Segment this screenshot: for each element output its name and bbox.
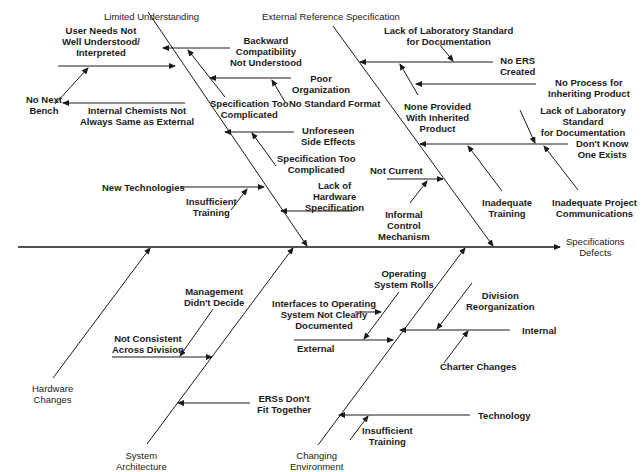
cause-management-didnt-decide: Management Didn't Decide bbox=[184, 286, 244, 308]
category-external-reference-specification: External Reference Specification bbox=[262, 11, 400, 22]
cause-erss-dont-fit-together: ERSs Don't Fit Together bbox=[257, 393, 311, 415]
cause-no-standard-format: No Standard Format bbox=[289, 98, 380, 109]
cause-inadequate-project-communications: Inadequate Project Communications bbox=[552, 197, 637, 219]
cause-operating-system-rolls: Operating System Rolls bbox=[374, 268, 434, 290]
cause-division-reorganization: Division Reorganization bbox=[466, 290, 535, 312]
bone-hardware bbox=[53, 248, 150, 378]
cause-unforeseen-side-effects: Unforeseen Side Effects bbox=[301, 125, 355, 147]
cause-technology: Technology bbox=[478, 410, 531, 421]
cause-insufficient-training-1: Insufficient Training bbox=[186, 196, 237, 218]
cause-internal: Internal bbox=[522, 325, 556, 336]
cause-insufficient-training-2: Insufficient Training bbox=[362, 425, 413, 447]
category-system-architecture: System Architecture bbox=[116, 450, 167, 472]
category-hardware-changes: Hardware Changes bbox=[32, 383, 73, 405]
category-changing-environment: Changing Environment bbox=[290, 450, 343, 472]
cause-internal-chemists: Internal Chemists Not Always Same as Ext… bbox=[80, 105, 194, 127]
cause-interfaces-to-os: Interfaces to Operating System Not Clear… bbox=[272, 298, 376, 331]
cause-no-process-for-inheriting: No Process for Inheriting Product bbox=[548, 77, 630, 99]
cause-lack-lab-standard-1: Lack of Laboratory Standard for Document… bbox=[384, 25, 513, 47]
effect-specifications-defects: Specifications Defects bbox=[566, 236, 625, 258]
cause-specification-too-complicated-2: Specification Too Complicated bbox=[277, 153, 355, 175]
cause-lack-lab-standard-2: Lack of Laboratory Standard for Document… bbox=[522, 105, 644, 138]
cause-not-current: Not Current bbox=[370, 165, 423, 176]
cause-backward-compatibility: Backward Compatibility Not Understood bbox=[230, 35, 302, 68]
cause-poor-organization: Poor Organization bbox=[292, 73, 350, 95]
cause-charter-changes: Charter Changes bbox=[440, 361, 517, 372]
cause-no-next-bench: No Next Bench bbox=[26, 94, 62, 116]
cause-specification-too-complicated-1: Specification Too Complicated bbox=[210, 98, 288, 120]
cause-no-ers-created: No ERS Created bbox=[500, 55, 535, 77]
cause-informal-control-mechanism: Informal Control Mechanism bbox=[378, 209, 430, 242]
cause-new-technologies: New Technologies bbox=[102, 182, 185, 193]
cause-inadequate-training: Inadequate Training bbox=[482, 197, 532, 219]
cause-none-provided: None Provided With Inherited Product bbox=[404, 101, 471, 134]
cause-lack-of-hardware-specification: Lack of Hardware Specification bbox=[305, 180, 364, 213]
cause-external: External bbox=[297, 343, 335, 354]
cause-dont-know-one-exists: Don't Know One Exists bbox=[576, 138, 628, 160]
cause-user-needs: User Needs Not Well Understood/ Interpre… bbox=[62, 25, 140, 58]
category-limited-understanding: Limited Understanding bbox=[104, 11, 199, 22]
cause-not-consistent-across-division: Not Consistent Across Division bbox=[112, 333, 184, 355]
